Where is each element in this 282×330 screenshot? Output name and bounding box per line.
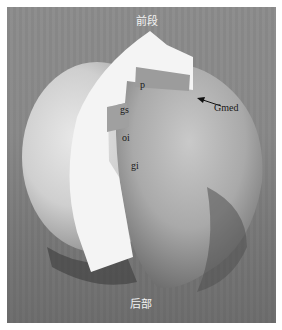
label-gmed: Gmed: [214, 102, 238, 113]
label-oi: oi: [122, 132, 130, 143]
label-gi: gi: [131, 160, 139, 171]
label-anterior: 前段: [136, 16, 158, 28]
specimen-illustration: [7, 7, 276, 323]
label-p: p: [140, 79, 145, 90]
label-posterior: 后部: [130, 299, 152, 311]
specimen-photo: 前段 后部 p gs oi gi Gmed: [7, 7, 276, 323]
label-gs: gs: [120, 104, 129, 115]
